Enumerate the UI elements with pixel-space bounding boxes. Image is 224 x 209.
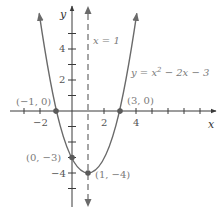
x-axis-label: x xyxy=(208,118,215,131)
y-tick-label-2: 2 xyxy=(59,74,65,85)
point-label-neg1-0: (−1, 0) xyxy=(16,96,51,107)
x-tick-label-2: 2 xyxy=(101,117,107,128)
point-label-3-0: (3, 0) xyxy=(127,95,154,106)
point-label-0-neg3: (0, −3) xyxy=(26,152,61,163)
symmetry-label: x = 1 xyxy=(93,35,120,46)
x-tick-label-4: 4 xyxy=(133,117,139,128)
y-tick-label-4: 4 xyxy=(59,43,65,54)
point-vertex-1-neg4 xyxy=(85,170,91,176)
point-neg1-0 xyxy=(53,108,59,114)
point-label-1-neg4: (1, −4) xyxy=(95,169,130,180)
symmetry-arrow-down-icon xyxy=(85,199,92,207)
y-axis-label: y xyxy=(59,8,67,21)
parabola-chart: x y −2 2 4 4 2 −4 x = 1 y = x2 − 2x − 3 … xyxy=(0,0,224,209)
equation-label: y = x2 − 2x − 3 xyxy=(130,66,209,78)
y-tick-label-neg4: −4 xyxy=(51,168,66,179)
x-tick-label-neg2: −2 xyxy=(33,117,48,128)
symmetry-arrow-up-icon xyxy=(85,6,92,14)
point-3-0 xyxy=(117,108,123,114)
point-0-neg3 xyxy=(69,155,75,161)
